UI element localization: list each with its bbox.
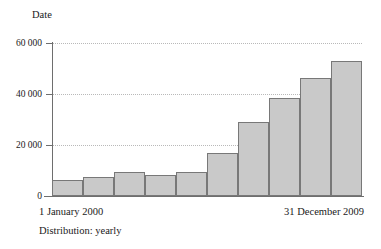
bar-series — [52, 43, 362, 196]
bar — [238, 122, 269, 196]
range-end-label: 31 December 2009 — [284, 205, 364, 218]
y-tick-label-0: 0 — [0, 191, 42, 201]
y-axis-title: Date — [32, 9, 52, 21]
bar — [269, 98, 300, 196]
bar — [83, 177, 114, 196]
x-axis-line — [44, 196, 364, 197]
distribution-label: Distribution: yearly — [39, 224, 122, 237]
bar — [176, 172, 207, 196]
y-tick-label-20000: 20 000 — [0, 140, 42, 150]
bar — [331, 61, 362, 196]
range-start-label: 1 January 2000 — [39, 205, 103, 218]
plot-area — [52, 43, 362, 196]
bar — [300, 78, 331, 196]
bar — [114, 172, 145, 196]
bar — [207, 153, 238, 196]
bar — [52, 180, 83, 196]
bar-chart: Date 60 000 40 000 20 000 0 1 January 20… — [0, 0, 381, 249]
bar — [145, 175, 176, 196]
y-tick-label-40000: 40 000 — [0, 89, 42, 99]
y-tick-label-60000: 60 000 — [0, 38, 42, 48]
